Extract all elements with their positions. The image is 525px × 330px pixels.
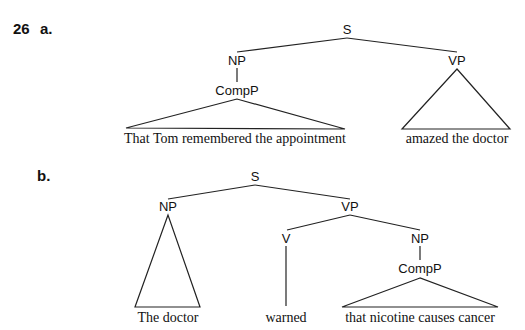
tree-a-leaf-subject: That Tom remembered the appointment [124,131,346,146]
tree-a-edge-s-vp [347,38,457,52]
tree-a-node-compp: CompP [215,83,258,98]
tree-b-node-compp: CompP [398,261,441,276]
tree-a: S NP VP CompP That Tom remembered the ap… [124,22,510,146]
example-number: 26 [13,20,30,37]
tree-b-edge-vp-v [287,215,350,230]
tree-a-node-np: NP [228,53,246,68]
tree-b-np-triangle [135,215,200,307]
tree-a-node-s: S [343,22,352,37]
tree-b: S NP VP The doctor V NP warned CompP tha… [135,169,498,325]
example-b-label: b. [37,167,50,184]
tree-a-node-vp: VP [448,53,465,68]
example-a-label: a. [40,20,53,37]
tree-b-node-np2: NP [411,231,429,246]
tree-b-compp-triangle [342,278,498,307]
tree-a-edge-s-np [237,38,347,52]
tree-b-leaf-object: that nicotine causes cancer [345,310,495,325]
tree-b-leaf-verb: warned [265,310,306,325]
tree-b-edge-s-vp [255,185,350,199]
tree-a-leaf-predicate: amazed the doctor [406,131,509,146]
tree-a-compp-triangle [126,99,345,129]
tree-b-node-vp: VP [341,199,358,214]
tree-b-node-s: S [251,169,260,184]
tree-a-vp-triangle [402,69,510,129]
tree-b-node-np: NP [159,199,177,214]
tree-b-edge-s-np [168,185,255,199]
syntax-tree-figure: 26 a. S NP VP CompP That Tom remembered … [0,0,525,330]
tree-b-edge-vp-np [350,215,420,230]
tree-b-node-v: V [282,231,291,246]
tree-b-leaf-subject: The doctor [137,310,198,325]
